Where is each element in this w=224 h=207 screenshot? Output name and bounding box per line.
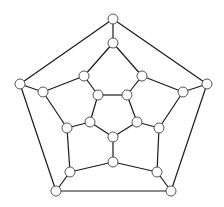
graph-node	[108, 157, 118, 167]
graph-node	[202, 79, 212, 89]
graph-node	[108, 14, 118, 24]
graph-node	[154, 123, 164, 133]
graph-node	[15, 79, 25, 89]
graph-node	[137, 71, 147, 81]
graph-node	[152, 167, 162, 177]
graph-node	[62, 123, 72, 133]
graph-edge	[70, 162, 113, 172]
graph-edge	[113, 162, 157, 172]
graph-edge	[113, 43, 142, 76]
graph-node	[51, 186, 61, 196]
graph-edge	[142, 76, 183, 92]
graph-node	[178, 87, 188, 97]
graph-node	[166, 186, 176, 196]
graph-edge	[20, 84, 56, 191]
dodecahedral-graph	[0, 0, 224, 207]
graph-node	[108, 38, 118, 48]
graph-node	[79, 71, 89, 81]
graph-edge	[113, 19, 207, 84]
graph-edge	[43, 92, 67, 128]
graph-edge	[84, 43, 113, 76]
graph-edge	[20, 19, 113, 84]
graph-edge	[171, 84, 207, 191]
graph-node	[122, 90, 132, 100]
graph-node	[65, 167, 75, 177]
graph-node	[108, 132, 118, 142]
graph-edge	[43, 76, 84, 92]
graph-node	[132, 117, 142, 127]
graph-node	[38, 87, 48, 97]
graph-edge	[157, 128, 159, 172]
graph-edge	[67, 128, 70, 172]
graph-edge	[159, 92, 183, 128]
graph-node	[93, 90, 103, 100]
graph-node	[85, 117, 95, 127]
graph-nodes	[15, 14, 212, 196]
